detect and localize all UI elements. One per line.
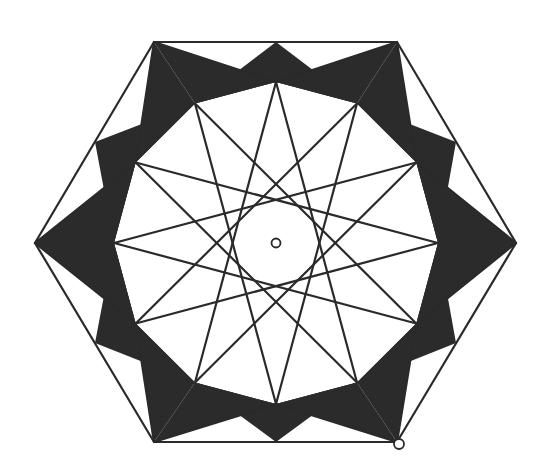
center-point-icon: [272, 239, 281, 248]
diagram-canvas: [0, 0, 554, 474]
corner-point-icon: [394, 439, 404, 449]
hexagon-star-figure: [0, 0, 554, 474]
